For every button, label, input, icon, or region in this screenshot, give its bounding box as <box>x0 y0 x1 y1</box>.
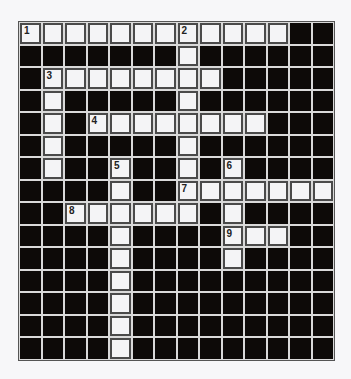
blocked-cell <box>20 316 41 337</box>
crossword-cell[interactable]: 1 <box>20 23 41 44</box>
crossword-cell[interactable] <box>223 181 244 202</box>
crossword-cell[interactable] <box>110 316 131 337</box>
crossword-cell[interactable]: 4 <box>88 113 109 134</box>
blocked-cell <box>178 226 199 247</box>
crossword-cell[interactable] <box>110 271 131 292</box>
blocked-cell <box>268 248 289 269</box>
blocked-cell <box>268 293 289 314</box>
crossword-cell[interactable] <box>110 113 131 134</box>
crossword-cell[interactable] <box>110 338 131 359</box>
crossword-cell[interactable] <box>245 23 266 44</box>
crossword-cell[interactable] <box>43 113 64 134</box>
crossword-cell[interactable] <box>178 91 199 112</box>
crossword-cell[interactable] <box>43 136 64 157</box>
blocked-cell <box>313 293 334 314</box>
blocked-cell <box>290 226 311 247</box>
crossword-cell[interactable] <box>110 248 131 269</box>
crossword-cell[interactable] <box>43 158 64 179</box>
crossword-cell[interactable] <box>290 181 311 202</box>
blocked-cell <box>65 158 86 179</box>
blocked-cell <box>223 136 244 157</box>
blocked-cell <box>268 316 289 337</box>
crossword-cell[interactable] <box>200 23 221 44</box>
crossword-cell[interactable] <box>43 91 64 112</box>
blocked-cell <box>268 338 289 359</box>
crossword-cell[interactable] <box>178 68 199 89</box>
crossword-cell[interactable] <box>268 226 289 247</box>
crossword-cell[interactable] <box>200 181 221 202</box>
blocked-cell <box>43 316 64 337</box>
crossword-cell[interactable] <box>43 23 64 44</box>
crossword-cell[interactable]: 8 <box>65 203 86 224</box>
crossword-cell[interactable]: 7 <box>178 181 199 202</box>
crossword-cell[interactable] <box>110 181 131 202</box>
blocked-cell <box>65 113 86 134</box>
blocked-cell <box>20 271 41 292</box>
blocked-cell <box>245 248 266 269</box>
crossword-cell[interactable] <box>155 68 176 89</box>
crossword-cell[interactable] <box>178 46 199 67</box>
crossword-cell[interactable] <box>133 203 154 224</box>
blocked-cell <box>133 271 154 292</box>
crossword-cell[interactable] <box>313 181 334 202</box>
crossword-cell[interactable] <box>223 248 244 269</box>
crossword-cell[interactable] <box>245 181 266 202</box>
blocked-cell <box>178 248 199 269</box>
crossword-cell[interactable] <box>155 113 176 134</box>
blocked-cell <box>290 68 311 89</box>
crossword-cell[interactable] <box>133 68 154 89</box>
crossword-cell[interactable] <box>245 113 266 134</box>
crossword-cell[interactable] <box>155 23 176 44</box>
crossword-cell[interactable]: 9 <box>223 226 244 247</box>
blocked-cell <box>88 248 109 269</box>
clue-number: 4 <box>92 115 98 127</box>
crossword-cell[interactable] <box>88 203 109 224</box>
crossword-cell[interactable] <box>178 203 199 224</box>
crossword-cell[interactable] <box>65 68 86 89</box>
crossword-cell[interactable]: 2 <box>178 23 199 44</box>
blocked-cell <box>20 68 41 89</box>
crossword-cell[interactable] <box>268 23 289 44</box>
crossword-cell[interactable] <box>245 226 266 247</box>
crossword-cell[interactable] <box>133 23 154 44</box>
blocked-cell <box>313 23 334 44</box>
crossword-cell[interactable]: 6 <box>223 158 244 179</box>
blocked-cell <box>43 226 64 247</box>
blocked-cell <box>268 113 289 134</box>
blocked-cell <box>65 91 86 112</box>
crossword-cell[interactable] <box>110 226 131 247</box>
blocked-cell <box>313 271 334 292</box>
crossword-cell[interactable] <box>110 293 131 314</box>
blocked-cell <box>290 338 311 359</box>
blocked-cell <box>245 316 266 337</box>
blocked-cell <box>313 113 334 134</box>
crossword-cell[interactable] <box>88 23 109 44</box>
crossword-cell[interactable] <box>133 113 154 134</box>
blocked-cell <box>200 46 221 67</box>
blocked-cell <box>20 338 41 359</box>
crossword-cell[interactable] <box>223 23 244 44</box>
crossword-cell[interactable] <box>110 203 131 224</box>
blocked-cell <box>200 203 221 224</box>
blocked-cell <box>245 338 266 359</box>
crossword-cell[interactable] <box>178 136 199 157</box>
blocked-cell <box>110 91 131 112</box>
crossword-cell[interactable] <box>268 181 289 202</box>
crossword-cell[interactable] <box>155 203 176 224</box>
crossword-cell[interactable] <box>200 68 221 89</box>
crossword-cell[interactable] <box>223 203 244 224</box>
crossword-cell[interactable] <box>110 68 131 89</box>
blocked-cell <box>178 293 199 314</box>
blocked-cell <box>245 68 266 89</box>
crossword-cell[interactable] <box>200 113 221 134</box>
crossword-cell[interactable] <box>223 113 244 134</box>
crossword-cell[interactable] <box>88 68 109 89</box>
crossword-cell[interactable] <box>178 113 199 134</box>
crossword-cell[interactable] <box>178 158 199 179</box>
crossword-cell[interactable] <box>65 23 86 44</box>
crossword-cell[interactable]: 3 <box>43 68 64 89</box>
crossword-cell[interactable] <box>110 23 131 44</box>
blocked-cell <box>290 91 311 112</box>
blocked-cell <box>200 338 221 359</box>
crossword-cell[interactable]: 5 <box>110 158 131 179</box>
